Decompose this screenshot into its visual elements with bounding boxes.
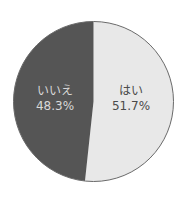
slice-label-no: いいえ 48.3% [22, 84, 88, 114]
slice-label-yes: はい 51.7% [98, 84, 164, 114]
slice-label-yes-percent: 51.7% [98, 99, 164, 114]
slice-label-no-name: いいえ [22, 84, 88, 99]
slice-label-yes-name: はい [98, 84, 164, 99]
slice-label-no-percent: 48.3% [22, 99, 88, 114]
